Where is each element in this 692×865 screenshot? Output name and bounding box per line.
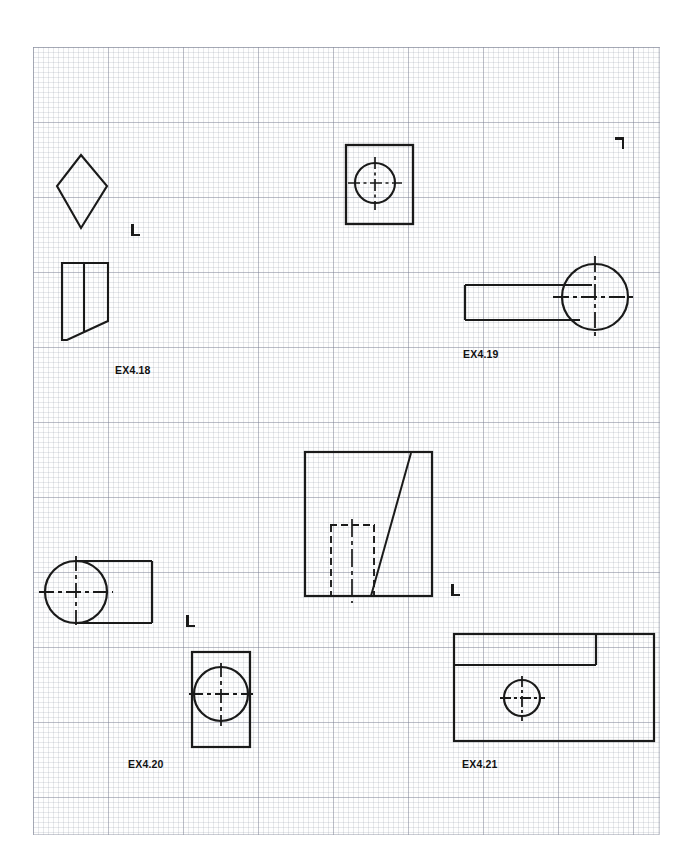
corner-mark-4 bbox=[451, 584, 462, 596]
exercise-label-ex421: EX4.21 bbox=[462, 758, 498, 770]
corner-mark-1 bbox=[131, 224, 142, 236]
exercise-label-ex419: EX4.19 bbox=[463, 348, 499, 360]
graph-paper-grid bbox=[33, 47, 660, 835]
corner-mark-2 bbox=[613, 137, 624, 149]
exercise-label-ex418: EX4.18 bbox=[115, 364, 151, 376]
corner-mark-3 bbox=[186, 615, 197, 627]
exercise-label-ex420: EX4.20 bbox=[128, 758, 164, 770]
worksheet-page: EX4.18 EX4.19 EX4.20 EX4.21 bbox=[0, 0, 692, 865]
